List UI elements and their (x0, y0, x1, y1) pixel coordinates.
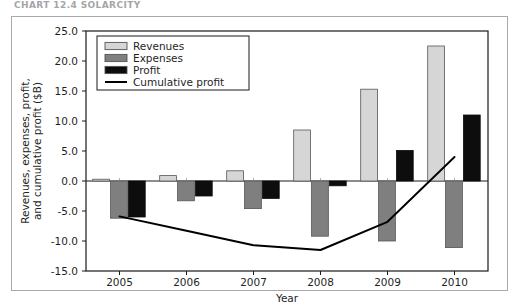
y-axis-tick-label: 5.0 (61, 145, 78, 157)
y-axis-title-line1: Revenues, expenses, profit, (19, 78, 31, 223)
y-axis-tick-label: 10.0 (55, 115, 78, 127)
bar-expenses (446, 181, 463, 248)
y-axis-tick-label: 20.0 (55, 55, 78, 67)
y-axis-tick-label: 15.0 (55, 85, 78, 97)
x-axis-tick-label: 2006 (173, 276, 200, 288)
x-axis-tick-label: 2008 (307, 276, 334, 288)
figure-container: CHART 12.4 SOLARCITY -15.0-10.0-5.00.05.… (0, 0, 523, 306)
bar-profit (128, 181, 145, 217)
y-axis-tick-label: -15.0 (51, 265, 78, 277)
bar-profit (329, 181, 346, 186)
y-axis-tick-label: 25.0 (55, 25, 78, 37)
bar-expenses (178, 181, 195, 201)
bar-profit (396, 150, 413, 181)
legend-label: Profit (133, 64, 160, 76)
bar-revenues (361, 89, 378, 181)
bar-profit (195, 181, 212, 196)
x-axis-tick-label: 2009 (374, 276, 401, 288)
bar-revenues (294, 130, 311, 181)
bar-profit (463, 115, 480, 181)
legend-swatch-patch (105, 54, 127, 61)
y-axis-title: Revenues, expenses, profit,and cumulativ… (19, 78, 43, 223)
bar-revenues (160, 176, 177, 181)
x-axis-tick-label: 2005 (106, 276, 133, 288)
x-axis-tick-label: 2010 (441, 276, 468, 288)
legend-swatch-patch (105, 42, 127, 49)
bar-profit (262, 181, 279, 198)
bar-expenses (312, 181, 329, 236)
x-axis-title: Year (275, 292, 299, 304)
y-axis-tick-label: -10.0 (51, 235, 78, 247)
bar-expenses (111, 181, 128, 218)
legend-label: Revenues (133, 40, 184, 52)
bar-revenues (428, 46, 445, 181)
bar-expenses (245, 181, 262, 209)
bar-revenues (227, 171, 244, 181)
bar-expenses (379, 181, 396, 241)
legend-label: Expenses (133, 52, 183, 64)
legend-swatch-patch (105, 66, 127, 73)
chart-canvas: -15.0-10.0-5.00.05.010.015.020.025.02005… (0, 0, 523, 306)
y-axis-title-line2: and cumulative profit ($B) (31, 82, 43, 220)
legend-label: Cumulative profit (133, 76, 224, 88)
y-axis-tick-label: -5.0 (58, 205, 79, 217)
x-axis-tick-label: 2007 (240, 276, 267, 288)
y-axis-tick-label: 0.0 (61, 175, 78, 187)
bar-revenues (93, 179, 110, 181)
